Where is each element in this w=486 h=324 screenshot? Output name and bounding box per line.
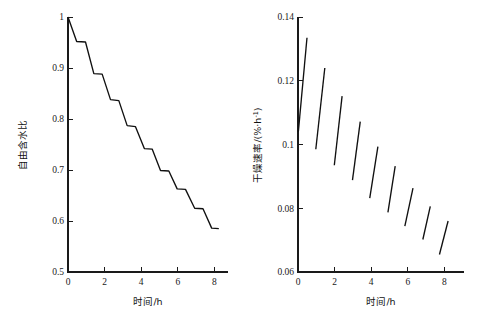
left-ytick-0: 0.5 — [52, 267, 64, 277]
right-ytick-2: 0.1 — [282, 140, 294, 150]
left-ytick-1: 0.6 — [52, 216, 64, 226]
right-ytick-1: 0.08 — [277, 204, 294, 214]
drying-rate-segment-8 — [423, 206, 430, 239]
right-axis-spines — [298, 17, 464, 272]
left-plot-svg: 0.5 0.6 0.7 0.8 0.9 1 0 2 4 6 8 时间/h — [0, 0, 243, 324]
left-yaxis-title: 自由含水比 — [17, 120, 28, 170]
left-xtick-2: 4 — [139, 277, 144, 287]
right-yaxis-title: 干燥速率/(%·h-1) — [252, 107, 263, 182]
left-ytick-3: 0.8 — [52, 114, 64, 124]
left-xtick-4: 8 — [212, 277, 217, 287]
right-yaxis-title-main: 干燥速率/(%·h — [252, 118, 263, 183]
drying-rate-segment-2 — [316, 68, 325, 149]
right-xaxis-title: 时间/h — [366, 296, 395, 307]
drying-rate-segment-1 — [298, 38, 307, 132]
right-y-ticks — [298, 17, 303, 272]
right-xtick-3: 6 — [405, 277, 410, 287]
drying-rate-segment-7 — [405, 188, 413, 226]
left-xtick-0: 0 — [66, 277, 71, 287]
left-xaxis-title: 时间/h — [133, 296, 162, 307]
right-yaxis-title-tail: ) — [252, 107, 263, 111]
left-ytick-2: 0.7 — [52, 165, 64, 175]
right-xtick-2: 4 — [369, 277, 374, 287]
drying-rate-segment-4 — [352, 122, 360, 181]
right-xtick-1: 2 — [332, 277, 337, 287]
free-water-ratio-line — [68, 17, 219, 229]
drying-rate-segment-3 — [334, 96, 342, 165]
right-panel: 0.06 0.08 0.1 0.12 0.14 0 2 4 6 8 时间/h — [243, 0, 486, 324]
left-xtick-1: 2 — [102, 277, 107, 287]
left-axis-spines — [68, 17, 228, 272]
right-ytick-3: 0.12 — [277, 76, 294, 86]
right-ytick-4: 0.14 — [277, 12, 294, 22]
right-xtick-0: 0 — [296, 277, 301, 287]
left-xtick-3: 6 — [175, 277, 180, 287]
drying-rate-segment-6 — [388, 166, 395, 212]
drying-rate-segment-9 — [439, 221, 448, 254]
left-ytick-4: 0.9 — [52, 63, 64, 73]
right-plot-svg: 0.06 0.08 0.1 0.12 0.14 0 2 4 6 8 时间/h — [243, 0, 486, 324]
right-xtick-4: 8 — [442, 277, 447, 287]
drying-rate-segment-5 — [370, 147, 378, 198]
right-x-ticks — [298, 267, 444, 272]
left-y-ticks — [68, 17, 73, 272]
drying-rate-segments — [298, 38, 448, 255]
right-ytick-0: 0.06 — [277, 267, 294, 277]
left-ytick-5: 1 — [59, 12, 64, 22]
left-x-ticks — [68, 267, 214, 272]
left-panel: 0.5 0.6 0.7 0.8 0.9 1 0 2 4 6 8 时间/h — [0, 0, 243, 324]
two-panel-figure: 0.5 0.6 0.7 0.8 0.9 1 0 2 4 6 8 时间/h — [0, 0, 486, 324]
